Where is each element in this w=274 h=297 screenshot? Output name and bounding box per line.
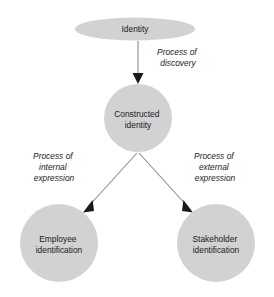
arrow-head-external-expression — [182, 200, 193, 213]
node-employee-identification[interactable]: Employee identification — [20, 204, 98, 282]
node-constructed-identity[interactable]: Constructed identity — [104, 84, 172, 152]
node-constructed-identity-label-line-1: Constructed — [114, 109, 159, 119]
edge-label-internal-expression: Process of internal expression — [33, 151, 75, 183]
node-identity-label-line-1: Identity — [121, 24, 149, 34]
node-identity-label: Identity — [121, 24, 149, 34]
node-employee-identification-label-line-2: identification — [36, 245, 83, 255]
edge-label-internal-expression-line-2: internal — [39, 162, 68, 172]
edge-label-external-expression: Process of external expression — [194, 151, 236, 183]
edge-label-external-expression-line-2: external — [199, 162, 230, 172]
edge-label-discovery-line-1: Process of — [157, 47, 198, 57]
node-identity[interactable]: Identity — [75, 18, 195, 41]
edge-label-internal-expression-line-3: expression — [34, 173, 75, 183]
edge-label-discovery: Process of discovery — [157, 47, 199, 68]
node-stakeholder-identification-label: Stakeholder identification — [192, 234, 239, 255]
diagram-canvas: Process of discovery Process of internal… — [0, 0, 274, 297]
flowchart-svg: Process of discovery Process of internal… — [0, 0, 274, 297]
arrow-head-internal-expression — [83, 200, 94, 213]
node-employee-identification-label: Employee identification — [36, 234, 83, 255]
node-constructed-identity-label-line-2: identity — [125, 120, 152, 130]
node-stakeholder-identification-label-line-2: identification — [193, 245, 240, 255]
node-employee-identification-label-line-1: Employee — [39, 234, 77, 244]
edge-label-external-expression-line-1: Process of — [194, 151, 235, 161]
node-stakeholder-identification[interactable]: Stakeholder identification — [177, 204, 255, 282]
arrow-head-discovery — [133, 73, 144, 84]
node-stakeholder-identification-label-line-1: Stakeholder — [192, 234, 237, 244]
edge-line-external-expression — [139, 153, 188, 207]
edge-label-discovery-line-2: discovery — [160, 58, 196, 68]
edge-process-of-discovery: Process of discovery — [133, 41, 199, 84]
edge-process-of-external-expression: Process of external expression — [139, 151, 236, 212]
edge-process-of-internal-expression: Process of internal expression — [33, 151, 137, 212]
edge-line-internal-expression — [88, 153, 137, 207]
edge-label-internal-expression-line-1: Process of — [33, 151, 74, 161]
edge-label-external-expression-line-3: expression — [195, 173, 236, 183]
